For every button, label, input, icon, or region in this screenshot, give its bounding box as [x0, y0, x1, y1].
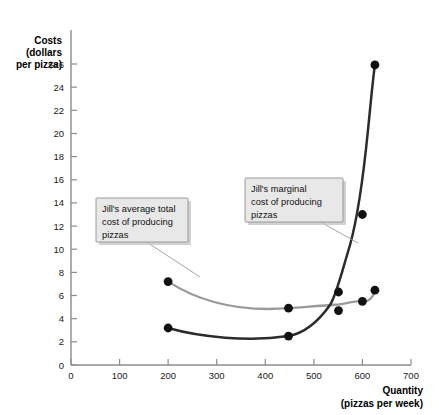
y-tick-8: 8: [59, 267, 64, 278]
y-tick-26: $26: [48, 59, 64, 70]
mc-callout-line2: cost of producing: [251, 197, 322, 207]
atc-callout-line3: pizzas: [102, 230, 129, 240]
x-tick-600: 600: [354, 370, 370, 381]
y-tick-4: 4: [59, 313, 64, 324]
y-tick-6: 6: [59, 290, 64, 301]
y-axis-title-line1: Costs: [34, 35, 62, 46]
mc-point-450: [284, 332, 293, 341]
atc-point-200: [164, 277, 173, 286]
mc-point-550: [334, 288, 343, 297]
y-tick-24: 24: [53, 82, 64, 93]
x-axis-ticks: 0 100 200 300 400 500 600 700: [68, 359, 419, 381]
x-tick-300: 300: [209, 370, 225, 381]
y-tick-18: 18: [53, 151, 64, 162]
atc-callout-line2: cost of producing: [102, 217, 173, 227]
atc-point-550: [334, 306, 343, 315]
atc-curve: [168, 282, 375, 309]
x-tick-700: 700: [403, 370, 419, 381]
y-tick-10: 10: [53, 244, 64, 255]
atc-point-625: [371, 286, 380, 295]
x-tick-0: 0: [68, 370, 73, 381]
mc-point-600: [358, 210, 367, 219]
cost-curves-chart: Costs (dollars per pizza) 0 2 4 6 8 10 1…: [0, 0, 439, 415]
x-tick-400: 400: [257, 370, 273, 381]
y-axis-ticks: 0 2 4 6 8 10 12 14 16 18 20 22 24 $26: [48, 59, 77, 371]
mc-point-200: [164, 324, 173, 333]
y-tick-12: 12: [53, 221, 64, 232]
y-tick-22: 22: [53, 105, 64, 116]
y-axis-title-line2: (dollars: [26, 47, 63, 58]
atc-point-450: [284, 304, 293, 313]
atc-callout-leader: [145, 241, 200, 277]
y-tick-16: 16: [53, 174, 64, 185]
y-tick-14: 14: [53, 197, 64, 208]
x-tick-100: 100: [112, 370, 128, 381]
mc-callout: Jill's marginal cost of producing pizzas: [245, 178, 358, 243]
mc-point-625: [371, 61, 380, 70]
x-axis-title-line1: Quantity: [382, 385, 423, 396]
x-axis-title-line2: (pizzas per week): [341, 398, 423, 409]
y-tick-0: 0: [59, 360, 64, 371]
y-tick-20: 20: [53, 128, 64, 139]
atc-point-600: [358, 297, 367, 306]
mc-callout-line1: Jill's marginal: [251, 184, 307, 194]
atc-callout: Jill's average total cost of producing p…: [96, 198, 200, 277]
atc-callout-line1: Jill's average total: [102, 204, 176, 214]
x-tick-200: 200: [160, 370, 176, 381]
mc-callout-line3: pizzas: [251, 210, 278, 220]
y-tick-2: 2: [59, 336, 64, 347]
x-tick-500: 500: [306, 370, 322, 381]
